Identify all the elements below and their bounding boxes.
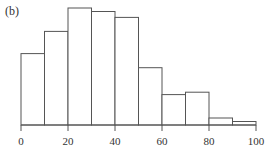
histogram-chart: 020406080100: [0, 0, 271, 156]
x-axis: 020406080100: [18, 125, 265, 147]
x-tick-label: 100: [248, 135, 265, 147]
histogram-bar: [92, 12, 116, 126]
x-tick-label: 0: [18, 135, 24, 147]
histogram-bars: [21, 8, 256, 125]
x-tick-label: 80: [204, 135, 216, 147]
histogram-bar: [45, 31, 69, 125]
histogram-bar: [139, 68, 163, 125]
histogram-bar: [115, 17, 139, 125]
histogram-bar: [68, 8, 92, 125]
histogram-bar: [186, 92, 210, 125]
x-tick-label: 60: [157, 135, 169, 147]
x-tick-label: 20: [63, 135, 75, 147]
x-tick-label: 40: [110, 135, 122, 147]
histogram-bar: [233, 122, 257, 126]
histogram-bar: [21, 54, 45, 125]
histogram-bar: [209, 118, 233, 125]
histogram-bar: [162, 95, 186, 125]
